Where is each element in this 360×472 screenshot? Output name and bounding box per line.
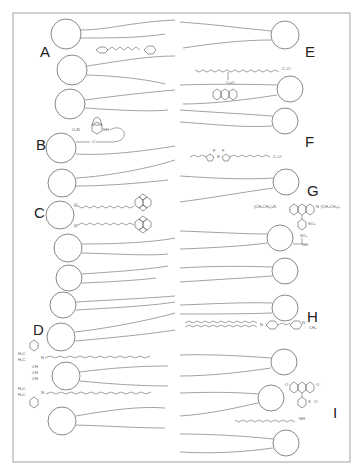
svg-text:CH: CH (32, 364, 38, 369)
lipid (47, 313, 175, 351)
svg-text:H₃C: H₃C (18, 357, 26, 362)
svg-text:F: F (222, 148, 225, 153)
lipid (51, 19, 175, 49)
svg-text:N: N (41, 355, 44, 360)
lipid (50, 292, 175, 318)
svg-text:C–O⁻: C–O⁻ (273, 154, 283, 159)
label-f: F (305, 133, 314, 150)
svg-text:CH: CH (32, 376, 38, 381)
label-g: G (307, 182, 319, 199)
svg-text:C=O: C=O (226, 80, 234, 85)
lipid (48, 160, 175, 197)
svg-text:C–O⁻: C–O⁻ (282, 66, 292, 71)
label-d: D (33, 321, 44, 338)
probe-a-dph (96, 46, 156, 54)
lipid (46, 133, 175, 163)
svg-text:O₂N: O₂N (72, 127, 80, 132)
svg-text:O⁻: O⁻ (316, 382, 321, 387)
svg-text:CH: CH (32, 370, 38, 375)
svg-text:N⁺: N⁺ (41, 390, 46, 395)
probe-f-bodipy: F F B C–O⁻ (190, 148, 283, 161)
lipid (48, 407, 165, 435)
lipid (180, 295, 298, 321)
label-h: H (307, 308, 318, 325)
lipid (180, 349, 297, 376)
svg-text:SO₃⁻: SO₃⁻ (308, 221, 317, 226)
lipid (180, 169, 299, 202)
membrane-probe-diagram: O₂N NH O O O H₃C H₃C N CH CH CH H₃C (0, 0, 360, 472)
svg-text:NH: NH (299, 416, 305, 421)
lipid (52, 362, 168, 390)
probe-c-pyrene: O O (74, 194, 151, 233)
svg-text:O: O (285, 382, 288, 387)
lipid (180, 225, 293, 251)
lipid (180, 385, 284, 416)
svg-text:H₃C: H₃C (18, 386, 26, 391)
label-b: B (36, 136, 46, 153)
svg-text:B: B (217, 154, 220, 159)
probe-e-anthroyloxy: C–O⁻ C=O (195, 66, 292, 100)
lipid (180, 258, 298, 284)
lipid (54, 234, 175, 262)
lipid (57, 55, 175, 85)
svg-text:N: N (260, 322, 263, 327)
lipid (180, 108, 298, 134)
right-leaflet (180, 21, 303, 456)
label-e: E (305, 43, 315, 60)
lipid (180, 21, 299, 49)
probe-h-styryl: N N⁺ CH₃ (185, 320, 317, 330)
svg-text:N⁺(CH₂CH₃)₂: N⁺(CH₂CH₃)₂ (316, 204, 340, 209)
probe-d-dii: H₃C H₃C N CH CH CH H₃C H₃C N⁺ (18, 340, 151, 408)
lipid (46, 201, 74, 229)
lipid (180, 430, 299, 456)
svg-text:H₃C: H₃C (18, 392, 26, 397)
label-a: A (40, 43, 50, 60)
svg-text:NH: NH (302, 242, 308, 247)
svg-text:O⁻: O⁻ (314, 399, 319, 404)
label-i: I (333, 404, 337, 421)
svg-text:CH₃: CH₃ (309, 325, 317, 330)
svg-text:NH: NH (103, 127, 109, 132)
left-leaflet (46, 19, 175, 435)
svg-text:SO₂: SO₂ (300, 233, 308, 238)
lipid (56, 265, 168, 291)
svg-text:H₃C: H₃C (18, 351, 26, 356)
label-c: C (34, 204, 45, 221)
svg-text:F: F (213, 148, 216, 153)
svg-text:(CH₃CH₂)₂N: (CH₃CH₂)₂N (254, 204, 276, 209)
lipid (180, 76, 303, 104)
svg-text:O: O (92, 139, 95, 144)
lipid (55, 89, 175, 119)
svg-text:S: S (308, 399, 311, 404)
probe-b-nbd: O₂N NH O (72, 117, 124, 144)
